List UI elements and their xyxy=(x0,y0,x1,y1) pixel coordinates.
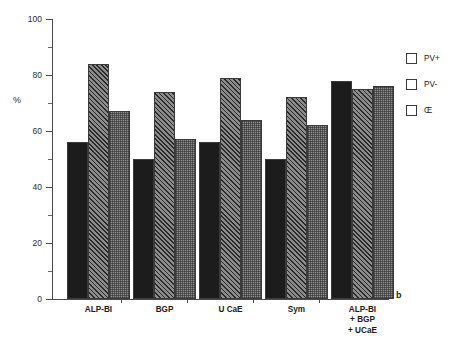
x-tick-3 xyxy=(319,299,320,303)
legend-label-pv-plus: PV+ xyxy=(424,53,440,64)
chart-legend: PV+ PV- Œ xyxy=(406,52,449,130)
plot-area xyxy=(52,19,385,299)
legend-swatch-oe xyxy=(406,105,417,116)
bar-pv-0 xyxy=(88,64,109,299)
legend-swatch-pv-minus xyxy=(406,79,417,90)
bar-pv-1 xyxy=(154,92,175,299)
y-axis-title: % xyxy=(13,95,21,105)
bar-pv-2 xyxy=(220,78,241,299)
bar-pv-4 xyxy=(352,89,373,299)
bar--1 xyxy=(175,139,196,299)
x-tick-1 xyxy=(187,299,188,303)
legend-item-pv-plus: PV+ xyxy=(406,52,449,78)
y-tick-label: 20 xyxy=(20,239,42,248)
bar-pv-2 xyxy=(199,142,220,299)
x-axis-line xyxy=(52,299,389,300)
y-tick-label: 80 xyxy=(20,71,42,80)
legend-swatch-pv-plus xyxy=(406,53,417,64)
y-tick-major xyxy=(46,299,52,300)
x-tick-2 xyxy=(253,299,254,303)
y-tick-label: 40 xyxy=(20,183,42,192)
bar-pv-3 xyxy=(286,97,307,299)
bar-chart-figure: % 020406080100 ALP-BIBGPU CaESymALP-BI +… xyxy=(0,0,449,343)
bar-pv-3 xyxy=(265,159,286,299)
bar-pv-0 xyxy=(67,142,88,299)
bar-pv-1 xyxy=(133,159,154,299)
y-tick-label: 100 xyxy=(20,15,42,24)
x-tick-0 xyxy=(121,299,122,303)
bar--0 xyxy=(109,111,130,299)
x-axis-label-4: ALP-BI + BGP + UCaE xyxy=(318,305,408,336)
y-tick-label: 60 xyxy=(20,127,42,136)
panel-label-b: b xyxy=(396,290,402,300)
legend-label-pv-minus: PV- xyxy=(424,79,437,90)
bar-pv-4 xyxy=(331,81,352,299)
legend-label-oe: Œ xyxy=(424,105,432,116)
bar--4 xyxy=(373,86,394,299)
bar--2 xyxy=(241,120,262,299)
legend-item-oe: Œ xyxy=(406,104,449,130)
bar--3 xyxy=(307,125,328,299)
y-tick-label: 0 xyxy=(20,295,42,304)
legend-item-pv-minus: PV- xyxy=(406,78,449,104)
